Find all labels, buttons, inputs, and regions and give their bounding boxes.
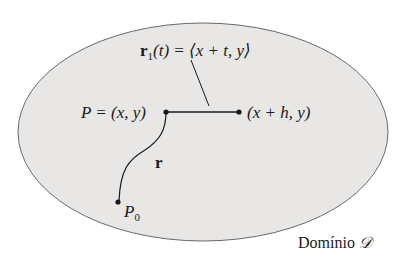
point-p-label: P = (x, y) (80, 103, 146, 122)
diagram: r1(t) = ⟨x + t, y⟩ P = (x, y) (x + h, y)… (0, 0, 414, 265)
domain-label: Domínio𝒟 (298, 234, 375, 251)
point-p0 (115, 199, 120, 204)
point-h (236, 109, 241, 114)
curve-label: r (155, 153, 163, 172)
point-h-label: (x + h, y) (247, 103, 311, 122)
point-p (163, 109, 168, 114)
path-label: r1(t) = ⟨x + t, y⟩ (140, 41, 251, 62)
